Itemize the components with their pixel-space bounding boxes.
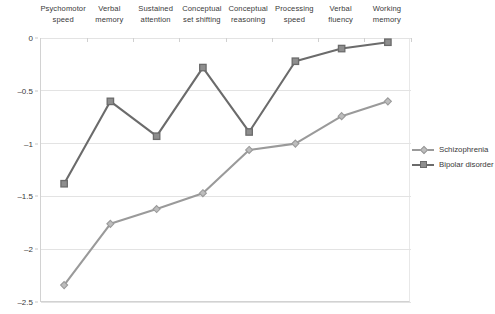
x-axis-label-6: Processing speed xyxy=(271,4,317,32)
series-schizophrenia xyxy=(61,98,392,289)
data-point-2-7 xyxy=(338,45,344,51)
data-point-1-8 xyxy=(384,98,391,105)
x-axis-label-5: Conceptual reasoning xyxy=(225,4,271,32)
data-point-2-4 xyxy=(200,64,206,70)
plot-canvas xyxy=(41,38,411,302)
data-point-1-3 xyxy=(153,206,160,213)
data-point-2-8 xyxy=(385,39,391,45)
data-point-2-6 xyxy=(292,58,298,64)
y-tick-mark-4 xyxy=(35,196,38,197)
y-tick-mark-5 xyxy=(35,249,38,250)
y-tick-mark-3 xyxy=(35,143,38,144)
y-tick-label-6: –2.5 xyxy=(17,298,33,307)
legend-label-1: Schizophrenia xyxy=(439,145,488,154)
y-tick-mark-6 xyxy=(35,302,38,303)
x-axis-label-7: Verbal fluency xyxy=(318,4,364,32)
legend-swatch-icon-2 xyxy=(412,159,434,170)
y-axis: 0–0.5–1–1.5–2–2.5 xyxy=(0,38,38,302)
legend-item-bipolar-disorder[interactable]: Bipolar disorder xyxy=(412,158,495,171)
data-point-2-1 xyxy=(61,181,67,187)
legend-item-schizophrenia[interactable]: Schizophrenia xyxy=(412,143,495,156)
x-axis-category-labels: Psychomotor speedVerbal memorySustained … xyxy=(40,4,410,32)
series-line-1 xyxy=(64,101,388,285)
x-axis-label-2: Verbal memory xyxy=(86,4,132,32)
y-tick-label-5: –2 xyxy=(24,245,33,254)
effect-size-line-chart: Psychomotor speedVerbal memorySustained … xyxy=(0,0,495,314)
legend-swatch-icon-1 xyxy=(412,144,434,155)
x-axis-label-8: Working memory xyxy=(364,4,410,32)
data-point-2-3 xyxy=(153,133,159,139)
y-tick-label-1: 0 xyxy=(29,34,33,43)
series-line-2 xyxy=(64,42,388,184)
y-tick-label-2: –0.5 xyxy=(17,86,33,95)
data-point-2-5 xyxy=(246,129,252,135)
y-tick-label-4: –1.5 xyxy=(17,192,33,201)
y-tick-mark-2 xyxy=(35,90,38,91)
y-tick-mark-1 xyxy=(35,38,38,39)
x-axis-label-3: Sustained attention xyxy=(133,4,179,32)
legend-label-2: Bipolar disorder xyxy=(439,160,494,169)
data-point-2-2 xyxy=(107,98,113,104)
x-axis-label-1: Psychomotor speed xyxy=(40,4,86,32)
chart-legend: SchizophreniaBipolar disorder xyxy=(412,143,495,173)
y-tick-label-3: –1 xyxy=(24,139,33,148)
plot-area xyxy=(40,38,410,302)
x-axis-label-4: Conceptual set shifting xyxy=(179,4,225,32)
